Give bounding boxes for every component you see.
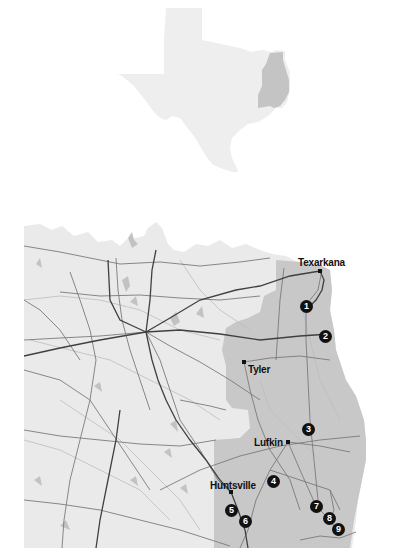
map-marker-6[interactable]: 6 <box>239 515 252 528</box>
map-marker-7[interactable]: 7 <box>310 500 323 513</box>
city-label-texarkana: Texarkana <box>298 257 345 268</box>
map-marker-3[interactable]: 3 <box>302 423 315 436</box>
east-texas-road-map <box>0 0 401 548</box>
map-marker-9[interactable]: 9 <box>332 523 345 536</box>
city-label-lufkin: Lufkin <box>254 437 283 448</box>
map-marker-2[interactable]: 2 <box>319 330 332 343</box>
map-marker-4[interactable]: 4 <box>267 475 280 488</box>
city-label-tyler: Tyler <box>248 364 270 375</box>
map-marker-1[interactable]: 1 <box>300 300 313 313</box>
city-label-huntsville: Huntsville <box>210 480 256 491</box>
map-marker-5[interactable]: 5 <box>225 504 238 517</box>
